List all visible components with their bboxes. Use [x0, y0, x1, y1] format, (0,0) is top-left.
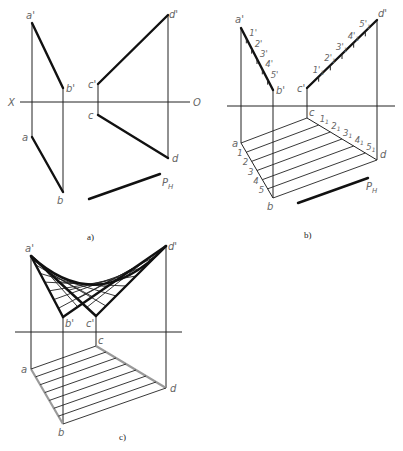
subscript: 1: [348, 132, 352, 139]
plane-trace-label: PH: [162, 177, 174, 191]
point-label-d: d: [170, 383, 177, 394]
panel-caption: c): [119, 432, 126, 442]
point-label-c: c: [88, 110, 94, 121]
ruling-top-1: [246, 125, 318, 152]
point-label-b-prime: b': [65, 318, 74, 329]
division-label-ab-top: 5: [259, 185, 264, 195]
point-label-d-prime: d': [168, 241, 177, 252]
point-label-c: c: [98, 335, 104, 346]
plane-trace-label: PH: [366, 181, 378, 195]
point-label-a-prime: a': [235, 14, 244, 25]
axis-label-o: O: [193, 97, 201, 108]
point-label-b-prime: b': [66, 83, 75, 94]
line-cd-front: [98, 15, 168, 84]
division-label-cd-front: 2'1: [324, 53, 336, 64]
ruling-top-3: [45, 364, 126, 393]
subscript: 1: [344, 46, 348, 53]
division-label-cd-front: 5'1: [359, 19, 371, 30]
division-label-ab-front: 4': [265, 59, 273, 69]
point-label-b-prime: b': [276, 85, 285, 96]
division-label-cd-top: 41: [355, 135, 364, 146]
panel-c-hyperbolic-paraboloid: a'b'c'd'abcdc): [15, 241, 182, 442]
point-label-a-prime: a': [26, 10, 35, 21]
point-label-c-prime: c': [297, 83, 305, 94]
subscript: 1: [325, 118, 329, 125]
subscript: 1: [360, 139, 364, 146]
division-label-ab-front: 2': [255, 39, 263, 49]
point-label-c: c: [309, 107, 315, 118]
ruling-top-4: [49, 370, 136, 400]
line-cd-top: [98, 115, 168, 158]
division-label-cd-top: 31: [343, 128, 352, 139]
ruling-top-6: [58, 382, 156, 416]
point-label-b: b: [57, 195, 63, 206]
line-ab-front: [32, 23, 63, 88]
panel-b-divided-lines: 1'1'11112'2'12213'3'13314'4'14415'5'1551…: [227, 8, 395, 240]
point-label-b: b: [267, 201, 273, 212]
point-label-a: a: [21, 364, 27, 375]
division-label-cd-top: 51: [366, 142, 375, 153]
point-label-d: d: [380, 149, 387, 160]
subscript: 1: [367, 23, 371, 30]
subscript: 1: [355, 35, 359, 42]
division-label-cd-top: 11: [320, 114, 329, 125]
division-label-cd-top: 21: [331, 121, 340, 132]
point-label-c-prime: c': [88, 79, 96, 90]
ruling-top-0: [241, 118, 307, 143]
plane-trace-ph: [89, 174, 160, 199]
line-ab-front: [31, 256, 63, 317]
point-label-d: d: [172, 153, 179, 164]
division-label-cd-front: 4'1: [348, 31, 360, 42]
projection-drawing: XOa'b'c'd'abcdPHa) 1'1'11112'2'12213'3'1…: [0, 0, 403, 451]
ruling-top-1: [36, 352, 106, 377]
panel-caption: b): [304, 230, 312, 240]
point-label-a: a: [232, 138, 238, 149]
contour-curve: [31, 246, 166, 285]
point-label-c-prime: c': [86, 318, 94, 329]
point-label-d-prime: d': [378, 8, 387, 19]
ruling-top-4: [262, 146, 353, 180]
plane-trace-ph: [298, 178, 368, 203]
subscript: 1: [372, 146, 376, 153]
point-label-d-prime: d': [169, 9, 178, 20]
ruling-top-5: [54, 376, 146, 408]
subscript: 1: [320, 69, 324, 76]
point-label-b: b: [58, 427, 64, 438]
division-label-cd-front: 1'1: [313, 65, 325, 76]
subscript: H: [372, 187, 378, 195]
division-label-ab-front: 5': [271, 70, 279, 80]
panel-a-skew-lines: XOa'b'c'd'abcdPHa): [7, 9, 201, 242]
division-label-ab-front: 3': [260, 49, 268, 59]
axis-label-x: X: [7, 97, 16, 108]
division-label-cd-front: 3'1: [336, 42, 348, 53]
subscript: H: [168, 183, 174, 191]
point-label-a-prime: a': [25, 243, 34, 254]
panel-caption: a): [87, 232, 94, 242]
point-label-a: a: [22, 132, 28, 143]
ruling-top-7: [63, 388, 166, 424]
division-label-ab-front: 1': [249, 28, 257, 38]
line-ab-top: [32, 137, 63, 192]
orthographic-projection-figure: XOa'b'c'd'abcdPHa) 1'1'11112'2'12213'3'1…: [0, 0, 403, 451]
subscript: 1: [337, 125, 341, 132]
subscript: 1: [332, 57, 336, 64]
ruling-top-2: [252, 132, 331, 161]
